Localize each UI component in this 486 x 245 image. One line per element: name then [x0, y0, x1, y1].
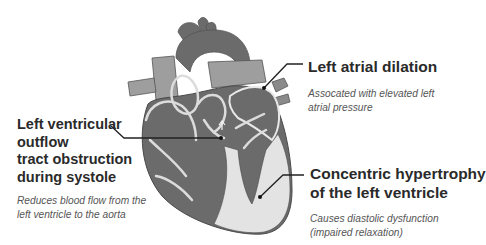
description-line: Causes diastolic dysfunction — [310, 212, 439, 226]
description-line: left ventricle to the aorta — [17, 208, 146, 222]
left-vessel — [128, 78, 156, 96]
title-line: Concentric hypertrophy — [310, 165, 486, 184]
pulmonary-artery — [208, 60, 266, 88]
title-line: Left atrial dilation — [308, 58, 437, 76]
label-concentric-hypertrophy-title: Concentric hypertrophy of the left ventr… — [310, 165, 486, 202]
superior-vena-cava — [152, 56, 178, 100]
title-line: Left ventricular — [17, 116, 132, 134]
title-line: outflow — [17, 134, 132, 152]
label-left-atrial-dilation-title: Left atrial dilation — [308, 58, 437, 76]
label-left-atrial-dilation-description: Assocated with elevated left atrial pres… — [308, 87, 434, 115]
label-lvot-obstruction-title: Left ventricular outflow tract obstructi… — [17, 116, 132, 186]
description-line: Assocated with elevated left — [308, 87, 434, 101]
title-line: of the left ventricle — [310, 184, 486, 203]
title-line: during systole — [17, 169, 132, 187]
title-line: tract obstruction — [17, 151, 132, 169]
label-concentric-hypertrophy-description: Causes diastolic dysfunction (impaired r… — [310, 212, 439, 240]
description-line: (impaired relaxation) — [310, 226, 439, 240]
label-lvot-obstruction-description: Reduces blood flow from the left ventric… — [17, 194, 146, 222]
description-line: atrial pressure — [308, 101, 434, 115]
description-line: Reduces blood flow from the — [17, 194, 146, 208]
